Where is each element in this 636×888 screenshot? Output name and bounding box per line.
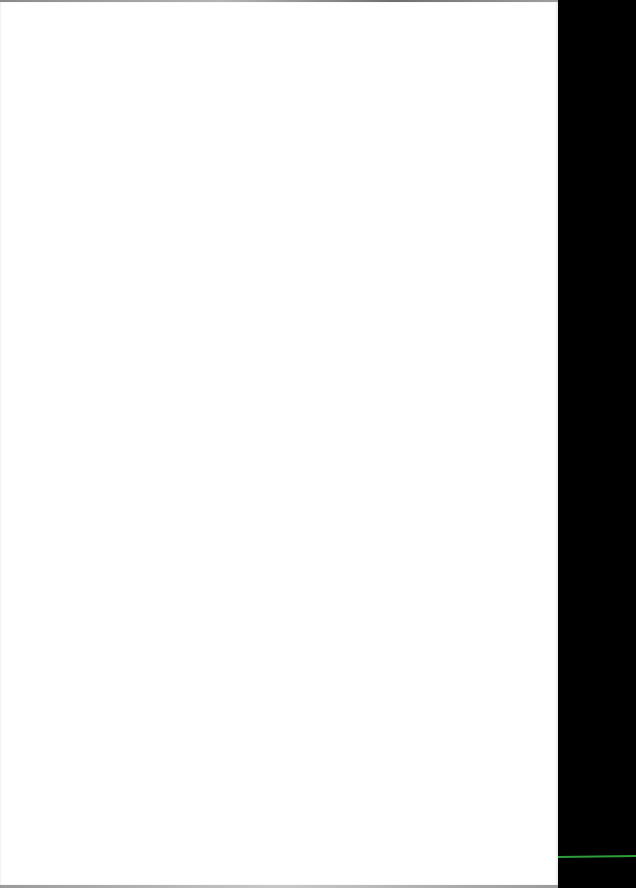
blank-sheet [0, 2, 558, 885]
dark-background-strip [558, 0, 636, 888]
scene [0, 0, 636, 888]
